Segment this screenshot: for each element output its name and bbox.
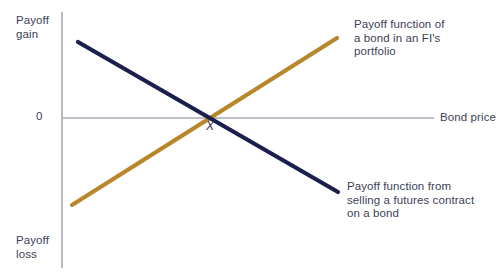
payoff-diagram: Payoff gain Payoff loss 0 Bond price Pay… bbox=[0, 0, 498, 275]
x-axis-label: Bond price bbox=[440, 111, 496, 125]
y-axis-origin-label: 0 bbox=[36, 110, 43, 124]
futures-payoff-line bbox=[78, 42, 338, 192]
y-axis-gain-label: Payoff gain bbox=[16, 14, 49, 41]
bond-payoff-annotation: Payoff function of a bond in an FI's por… bbox=[354, 18, 444, 59]
y-axis-loss-label: Payoff loss bbox=[16, 234, 49, 261]
intersection-marker-label: X bbox=[206, 120, 214, 134]
futures-payoff-annotation: Payoff function from selling a futures c… bbox=[347, 180, 474, 221]
